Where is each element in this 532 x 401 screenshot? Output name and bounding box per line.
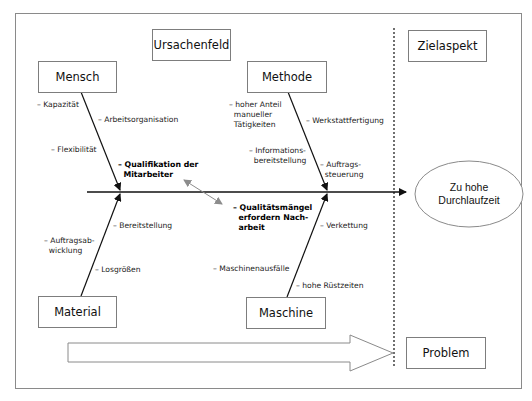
cause-werkstattfertigung: – Werkstattfertigung — [306, 116, 384, 126]
cause-kapazitaet: – Kapazität — [37, 100, 79, 110]
cause-verkettung: – Verkettung — [320, 221, 368, 231]
cause-arbeitsorganisation: – Arbeitsorganisation — [98, 115, 178, 125]
cause-bereitstellung: – Bereitstellung — [113, 221, 172, 231]
cause-ruestzeiten: – hohe Rüstzeiten — [296, 281, 363, 291]
cause-losgroessen: – Losgrößen — [95, 265, 141, 275]
cause-auftragsabwicklung: – Auftragsab- wicklung — [44, 236, 95, 256]
cause-auftragssteuerung: – Auftrags- steuerung — [320, 160, 364, 180]
cause-qualifikation: – Qualifikation der Mitarbeiter — [118, 160, 198, 180]
category-maschine-label: Maschine — [259, 306, 313, 320]
bone-mensch — [81, 92, 120, 190]
cause-manuelle-taetigkeiten: – hoher Anteil manueller Tätigkeiten — [229, 100, 282, 130]
effect-line-2: Durchlaufzeit — [415, 194, 523, 207]
category-maschine-box: Maschine — [246, 297, 326, 329]
cause-qualitaetsmaengel: – Qualitätsmängel erfordern Nach- arbeit — [233, 203, 312, 233]
category-methode-label: Methode — [262, 70, 312, 84]
category-mensch-box: Mensch — [38, 61, 117, 93]
category-methode-box: Methode — [247, 61, 327, 93]
category-material-box: Material — [38, 296, 117, 328]
category-mensch-label: Mensch — [56, 70, 100, 84]
cause-flexibilitaet: – Flexibilität — [51, 145, 97, 155]
effect-line-1: Zu hohe — [415, 181, 523, 194]
effect-label: Zu hohe Durchlaufzeit — [415, 181, 523, 207]
fishbone-diagram: Ursachenfeld Zielaspekt Problem Mensch M… — [0, 0, 532, 401]
zielaspekt-label: Zielaspekt — [418, 39, 478, 53]
problem-label: Problem — [422, 346, 469, 360]
problem-direction-arrow — [68, 335, 393, 371]
problem-box: Problem — [406, 337, 486, 369]
ursachenfeld-box: Ursachenfeld — [152, 29, 231, 61]
cause-maschinenausfaelle: – Maschinenausfälle — [213, 264, 289, 274]
zielaspekt-box: Zielaspekt — [408, 30, 487, 62]
cause-informationsbereitstellung: – Informations- bereitstellung — [249, 146, 306, 166]
ursachenfeld-label: Ursachenfeld — [154, 38, 230, 52]
category-material-label: Material — [54, 305, 101, 319]
